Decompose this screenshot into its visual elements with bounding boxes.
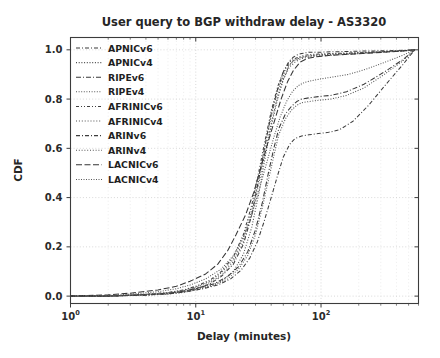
legend-label-ripev4: RIPEv4 xyxy=(108,86,145,97)
legend-label-afrinicv6: AFRINICv6 xyxy=(108,101,163,112)
y-tick-label: 0.0 xyxy=(45,291,63,302)
legend-label-afrinicv4: AFRINICv4 xyxy=(108,116,163,127)
legend-label-ripev6: RIPEv6 xyxy=(108,72,144,83)
chart-figure: User query to BGP withdraw delay - AS332… xyxy=(0,0,440,358)
chart-title: User query to BGP withdraw delay - AS332… xyxy=(102,15,386,29)
legend-label-apnicv4: APNICv4 xyxy=(108,57,153,68)
y-tick-label: 0.2 xyxy=(45,241,63,252)
legend-label-lacnicv6: LACNICv6 xyxy=(108,159,159,170)
y-tick-label: 0.4 xyxy=(45,192,63,203)
figure-background xyxy=(0,0,440,358)
y-tick-label: 0.6 xyxy=(45,143,63,154)
legend-label-apnicv6: APNICv6 xyxy=(108,43,153,54)
legend-label-arinv6: ARINv6 xyxy=(108,130,146,141)
x-tick-exponent: 0 xyxy=(75,309,80,317)
legend-label-arinv4: ARINv4 xyxy=(108,145,147,156)
legend-label-lacnicv4: LACNICv4 xyxy=(108,174,159,185)
x-tick-exponent: 1 xyxy=(200,309,205,317)
y-tick-label: 0.8 xyxy=(45,94,63,105)
y-axis-label: CDF xyxy=(12,158,24,182)
x-axis-label: Delay (minutes) xyxy=(197,330,291,342)
x-tick-exponent: 2 xyxy=(326,309,331,317)
y-tick-label: 1.0 xyxy=(45,44,63,55)
cdf-chart: User query to BGP withdraw delay - AS332… xyxy=(0,0,440,358)
